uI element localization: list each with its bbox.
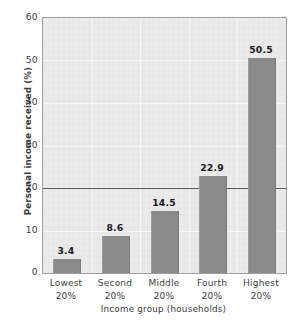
y-tick-label: 40 <box>4 96 38 107</box>
bar-value-label: 50.5 <box>236 44 286 55</box>
bar <box>53 259 81 273</box>
bar-value-label: 3.4 <box>41 245 91 256</box>
x-tick-label: Fourth20% <box>186 277 238 302</box>
plot-area <box>42 17 287 274</box>
x-tick-label-line: 20% <box>89 290 141 303</box>
gridline-vertical <box>237 18 238 273</box>
x-tick-label: Second20% <box>89 277 141 302</box>
bar-value-label: 8.6 <box>90 222 140 233</box>
bar <box>199 176 227 273</box>
bar <box>102 236 130 273</box>
x-tick-label: Middle20% <box>138 277 190 302</box>
bar <box>248 58 276 273</box>
bar-value-label: 22.9 <box>187 162 237 173</box>
gridline-vertical <box>92 18 93 273</box>
x-tick-label-line: 20% <box>235 290 287 303</box>
y-tick-label: 10 <box>4 224 38 235</box>
y-tick-label: 50 <box>4 54 38 65</box>
x-tick-label-line: 20% <box>40 290 92 303</box>
x-tick-label-line: Fourth <box>186 277 238 290</box>
y-tick-label: 60 <box>4 11 38 22</box>
x-tick-label-line: 20% <box>138 290 190 303</box>
x-tick-label-line: Lowest <box>40 277 92 290</box>
y-axis-tick-labels: 0102030405060 <box>0 0 38 324</box>
y-tick-label: 30 <box>4 139 38 150</box>
x-tick-label-line: Highest <box>235 277 287 290</box>
gridline-vertical <box>140 18 141 273</box>
x-axis-title: Income group (households) <box>42 304 285 314</box>
x-tick-label-line: Second <box>89 277 141 290</box>
x-tick-label: Highest20% <box>235 277 287 302</box>
bar-value-label: 14.5 <box>139 197 189 208</box>
x-tick-label-line: Middle <box>138 277 190 290</box>
bar-chart-figure: Personal income received (%) 01020304050… <box>0 0 294 324</box>
y-tick-label: 0 <box>4 266 38 277</box>
x-tick-label: Lowest20% <box>40 277 92 302</box>
gridline-vertical <box>189 18 190 273</box>
x-tick-label-line: 20% <box>186 290 238 303</box>
y-tick-label: 20 <box>4 181 38 192</box>
bar <box>151 211 179 273</box>
